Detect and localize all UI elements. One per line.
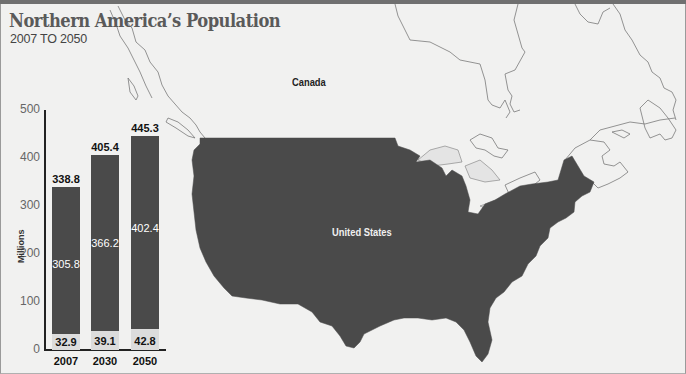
us-value-2050: 402.4	[125, 222, 165, 234]
y-axis-line	[44, 110, 46, 351]
population-bar-chart: 500 400 300 200 100 0 Millions 338.8 305…	[0, 0, 686, 374]
us-value-2030: 366.2	[85, 237, 125, 249]
y-tick-400: 400	[0, 150, 40, 164]
canada-value-2050: 42.8	[125, 335, 165, 347]
y-tick-0: 0	[0, 342, 40, 356]
total-2030: 405.4	[85, 141, 125, 153]
y-tick-300: 300	[0, 198, 40, 212]
x-label-2007: 2007	[46, 355, 86, 367]
us-value-2007: 305.8	[46, 258, 86, 270]
total-2007: 338.8	[46, 173, 86, 185]
y-tick-500: 500	[0, 102, 40, 116]
x-label-2050: 2050	[125, 355, 165, 367]
x-label-2030: 2030	[85, 355, 125, 367]
total-2050: 445.3	[125, 122, 165, 134]
y-axis-label: Millions	[16, 230, 26, 264]
canada-value-2007: 32.9	[46, 336, 86, 348]
canada-value-2030: 39.1	[85, 335, 125, 347]
y-tick-100: 100	[0, 294, 40, 308]
